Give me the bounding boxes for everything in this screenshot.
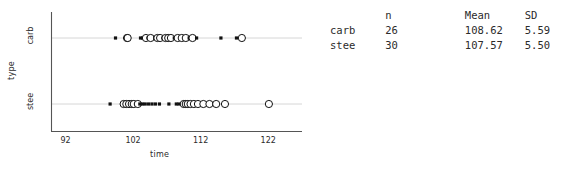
cell-n-stee: 30: [385, 38, 465, 53]
x-tick-label-112: 112: [193, 136, 208, 145]
row-label-carb: carb: [330, 23, 385, 38]
summary-statistics-table: n Mean SD carb 26 108.62 5.59 stee 30 10…: [330, 8, 569, 53]
x-tick-label-102: 102: [125, 136, 140, 145]
gridlines: [52, 38, 302, 104]
data-point-open-circle: [213, 100, 220, 107]
header-mean: Mean: [465, 8, 525, 23]
data-point-filled-square: [154, 102, 157, 105]
data-markers: [109, 34, 273, 107]
y-tick-label-stee: stee: [26, 88, 35, 116]
data-point-filled-square: [114, 36, 117, 39]
x-tick-label-122: 122: [261, 136, 276, 145]
axis-lines: [51, 12, 302, 132]
data-point-filled-square: [195, 36, 198, 39]
x-tick-label-92: 92: [60, 136, 70, 145]
header-sd: SD: [525, 8, 569, 23]
dotplot-figure: 92102112122 carbstee time type: [0, 0, 320, 180]
cell-sd-carb: 5.59: [525, 23, 569, 38]
data-point-open-circle: [238, 34, 245, 41]
header-n: n: [385, 8, 465, 23]
header-blank: [330, 8, 385, 23]
table-row: carb 26 108.62 5.59: [330, 23, 569, 38]
data-point-filled-square: [219, 36, 222, 39]
x-axis-title: time: [150, 150, 169, 159]
data-point-open-circle: [124, 34, 131, 41]
cell-mean-stee: 107.57: [465, 38, 525, 53]
data-point-filled-square: [109, 102, 112, 105]
data-point-filled-square: [158, 102, 161, 105]
data-point-filled-square: [144, 102, 147, 105]
data-point-filled-square: [235, 36, 238, 39]
data-point-open-circle: [265, 100, 272, 107]
y-axis-title: type: [7, 51, 16, 91]
data-point-open-circle: [206, 100, 213, 107]
y-tick-label-carb: carb: [26, 22, 35, 50]
data-point-open-circle: [221, 100, 228, 107]
table-header-row: n Mean SD: [330, 8, 569, 23]
table-row: stee 30 107.57 5.50: [330, 38, 569, 53]
row-label-stee: stee: [330, 38, 385, 53]
data-point-filled-square: [147, 102, 150, 105]
cell-mean-carb: 108.62: [465, 23, 525, 38]
data-point-filled-square: [150, 102, 153, 105]
cell-sd-stee: 5.50: [525, 38, 569, 53]
cell-n-carb: 26: [385, 23, 465, 38]
data-point-filled-square: [167, 102, 170, 105]
